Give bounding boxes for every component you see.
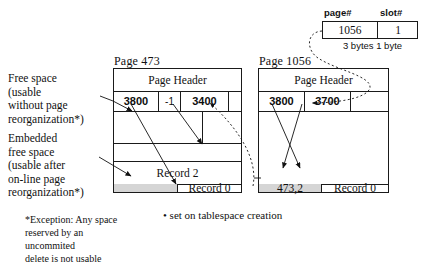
page-left-record-row-0: Record 0 [114,184,241,192]
pointer-table-header-slot: slot# [380,7,402,18]
page-left-box: Page Header 3800 -1 3400 Record 2 Record… [113,68,242,193]
pointer-table-bytes-label: 3 bytes 1 byte [320,40,425,51]
page-left-header: Page Header [114,69,241,92]
page-right-slot-1: 3700 [305,91,351,111]
page-left-title: Page 473 [114,54,160,69]
page-left-free-space-band-1 [114,111,241,144]
page-left-slot-1: -1 [159,91,181,111]
page-right-forward-pointer-cell: 473,2 [259,184,322,192]
pointer-table-cell-slot: 1 [377,22,419,38]
page-right-box: Page Header 3800 3700 473,2 Record 0 [258,68,389,193]
page-left-step-divider [202,111,203,143]
pointer-table-headers: page# slot# [322,7,419,20]
page-right-record-row-0: 473,2 Record 0 [259,184,388,192]
page-right-record-0-label: Record 0 [322,182,388,194]
pointer-table: 1056 1 [322,21,418,39]
annotation-free-space: Free space (usable without page reorgani… [8,72,108,126]
page-right-slot-array: 3800 3700 [259,91,388,112]
annotation-exception-note: *Exception: Any space reserved by an unc… [25,213,140,265]
annotation-bullet-note: • set on tablespace creation [163,209,282,222]
page-left-slot-array: 3800 -1 3400 [114,91,241,112]
page-left-free-space-band-2 [114,143,241,162]
annotation-embedded-free-space: Embedded free space (usable after on-lin… [8,132,108,200]
page-right-header: Page Header [259,69,388,92]
page-right-free-space-band [259,111,388,185]
page-right-slot-filler [351,91,388,111]
pointer-table-header-page: page# [324,7,351,18]
page-left-record-2-label: Record 2 [114,167,241,179]
page-left-slot-filler [229,91,241,111]
pointer-table-cell-page: 1056 [323,22,378,38]
page-left-slot-0: 3800 [114,91,159,111]
page-left-record-0-label: Record 0 [178,182,241,194]
page-left-slot-2: 3400 [181,91,229,111]
page-left-embedded-free-cell [114,184,178,192]
page-right-title: Page 1056 [259,54,311,69]
page-right-slot-0: 3800 [259,91,305,111]
diagram-canvas: page# slot# 1056 1 3 bytes 1 byte Page 4… [0,0,427,276]
